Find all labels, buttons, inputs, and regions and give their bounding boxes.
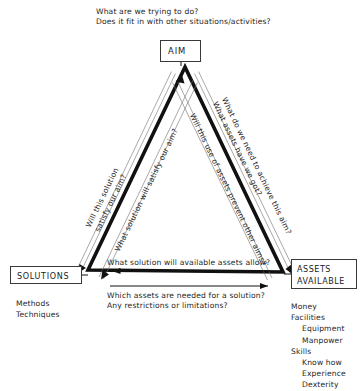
assets-list-item: Manpower bbox=[291, 335, 346, 346]
assets-list-item: Skills bbox=[291, 346, 346, 357]
assets-list-item: Facilities bbox=[291, 312, 346, 323]
bottom-edge-above-arrow-line-1: What solution will available assets allo… bbox=[107, 258, 270, 268]
node-assets-available[interactable]: ASSETS AVAILABLE bbox=[291, 259, 357, 289]
assets-list-item: Dexterity bbox=[291, 379, 346, 390]
assets-list: MoneyFacilitiesEquipmentManpowerSkillsKn… bbox=[291, 301, 346, 391]
solutions-list-item: Techniques bbox=[16, 309, 60, 320]
assets-list-item: Equipment bbox=[291, 323, 346, 334]
assets-list-item: Know how bbox=[291, 357, 346, 368]
node-aim-label: AIM bbox=[168, 46, 186, 56]
bottom-edge-above-arrow-label: What solution will available assets allo… bbox=[107, 258, 270, 268]
solutions-list: MethodsTechniques bbox=[16, 298, 60, 321]
top-questions-block: What are we trying to do? Does it fit in… bbox=[96, 7, 271, 28]
top-question-line-1: What are we trying to do? bbox=[96, 7, 271, 17]
node-solutions-label: SOLUTIONS bbox=[17, 272, 69, 281]
assets-list-item: Experience bbox=[291, 368, 346, 379]
node-aim[interactable]: AIM bbox=[160, 40, 201, 62]
top-question-line-2: Does it fit in with other situations/act… bbox=[96, 17, 271, 27]
bottom-edge-below-arrow-label: Which assets are needed for a solution? … bbox=[107, 291, 265, 312]
node-solutions[interactable]: SOLUTIONS bbox=[10, 266, 82, 284]
bottom-edge-below-arrow-line-2: Any restrictions or limitations? bbox=[107, 301, 265, 311]
node-assets-label-line-1: ASSETS bbox=[297, 264, 356, 276]
solutions-list-item: Methods bbox=[16, 298, 60, 309]
bottom-edge-below-arrow-line-1: Which assets are needed for a solution? bbox=[107, 291, 265, 301]
right-edge-arrowheads bbox=[176, 75, 294, 275]
assets-list-item: Money bbox=[291, 301, 346, 312]
node-assets-label-line-2: AVAILABLE bbox=[297, 276, 356, 288]
